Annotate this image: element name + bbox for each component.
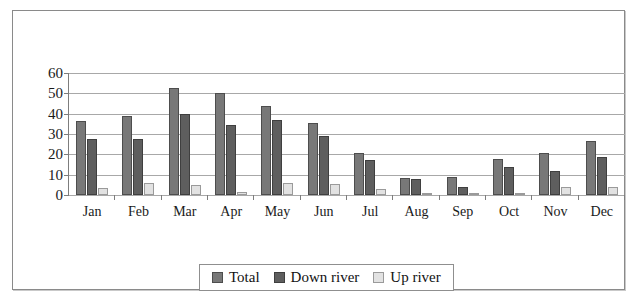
bar-sep-total [447, 177, 457, 195]
x-axis-tickmark [485, 195, 486, 200]
x-axis-label-jan: Jan [83, 204, 102, 220]
y-axis-tick-label: 20 [48, 146, 63, 163]
bar-group: Sep [440, 73, 486, 195]
bar-jan-down-river [87, 139, 97, 195]
bar-group: Jan [69, 73, 115, 195]
bar-oct-up-river [515, 193, 525, 195]
bar-feb-down-river [133, 139, 143, 195]
bar-jul-total [354, 153, 364, 195]
x-axis-label-oct: Oct [499, 204, 519, 220]
bar-group: Nov [532, 73, 578, 195]
bar-group: Apr [208, 73, 254, 195]
bar-nov-total [539, 153, 549, 195]
legend-swatch-icon [212, 272, 223, 283]
bar-jan-up-river [98, 188, 108, 195]
bar-sep-down-river [458, 187, 468, 195]
bar-group: Feb [115, 73, 161, 195]
bar-sep-up-river [469, 193, 479, 195]
bar-may-down-river [272, 120, 282, 195]
x-axis-tickmark [531, 195, 532, 200]
x-axis-tickmark [114, 195, 115, 200]
x-axis-label-feb: Feb [128, 204, 149, 220]
y-axis-tick-label: 40 [48, 105, 63, 122]
bar-jun-total [308, 123, 318, 195]
gridline [69, 195, 625, 196]
bar-group: Jul [347, 73, 393, 195]
x-axis-tickmark [300, 195, 301, 200]
bar-mar-down-river [180, 114, 190, 195]
y-axis-tickmark [64, 195, 69, 196]
bar-group: May [254, 73, 300, 195]
y-axis-tick-label: 0 [56, 187, 64, 204]
y-axis-tick-label: 60 [48, 65, 63, 82]
bar-may-total [261, 106, 271, 195]
x-axis-label-may: May [265, 204, 291, 220]
bar-aug-total [400, 178, 410, 195]
x-axis-label-mar: Mar [173, 204, 196, 220]
bar-group: Aug [393, 73, 439, 195]
legend-item-up-river[interactable]: Up river [373, 269, 440, 286]
x-axis-label-jun: Jun [314, 204, 333, 220]
chart-figure: 0102030405060JanFebMarAprMayJunJulAugSep… [12, 10, 625, 290]
bar-oct-down-river [504, 167, 514, 195]
x-axis-tickmark [624, 195, 625, 200]
bar-jun-down-river [319, 136, 329, 195]
bar-dec-total [586, 141, 596, 195]
bar-mar-up-river [191, 185, 201, 195]
bar-jul-down-river [365, 160, 375, 195]
bar-apr-up-river [237, 192, 247, 195]
bar-jan-total [76, 121, 86, 195]
bar-feb-up-river [144, 183, 154, 195]
bar-group: Jun [301, 73, 347, 195]
legend-label: Up river [390, 269, 440, 286]
legend-item-down-river[interactable]: Down river [274, 269, 360, 286]
legend-label: Down river [291, 269, 360, 286]
bar-may-up-river [283, 183, 293, 195]
x-axis-label-sep: Sep [452, 204, 473, 220]
x-axis-label-nov: Nov [543, 204, 567, 220]
legend-label: Total [229, 269, 260, 286]
bar-group: Mar [162, 73, 208, 195]
bar-feb-total [122, 116, 132, 195]
chart-legend: TotalDown riverUp river [199, 264, 454, 291]
bar-aug-up-river [422, 193, 432, 195]
legend-item-total[interactable]: Total [212, 269, 260, 286]
x-axis-tickmark [439, 195, 440, 200]
y-axis-tick-label: 30 [48, 126, 63, 143]
legend-swatch-icon [373, 272, 384, 283]
x-axis-tickmark [161, 195, 162, 200]
y-axis-tick-label: 10 [48, 166, 63, 183]
bar-dec-down-river [597, 157, 607, 195]
bar-mar-total [169, 88, 179, 195]
bar-oct-total [493, 159, 503, 195]
chart-title [213, 33, 513, 51]
bar-group: Oct [486, 73, 532, 195]
bar-aug-down-river [411, 179, 421, 195]
bar-nov-down-river [550, 171, 560, 195]
x-axis-tickmark [346, 195, 347, 200]
plot-area: 0102030405060JanFebMarAprMayJunJulAugSep… [68, 73, 625, 196]
x-axis-tickmark [392, 195, 393, 200]
x-axis-label-apr: Apr [220, 204, 242, 220]
bar-group: Dec [579, 73, 625, 195]
x-axis-label-dec: Dec [591, 204, 614, 220]
bar-apr-total [215, 93, 225, 195]
legend-swatch-icon [274, 272, 285, 283]
bar-dec-up-river [608, 187, 618, 195]
x-axis-tickmark [253, 195, 254, 200]
x-axis-tickmark [207, 195, 208, 200]
x-axis-label-aug: Aug [404, 204, 428, 220]
x-axis-tickmark [578, 195, 579, 200]
x-axis-label-jul: Jul [362, 204, 378, 220]
bar-nov-up-river [561, 187, 571, 195]
y-axis-tick-label: 50 [48, 85, 63, 102]
bar-jun-up-river [330, 184, 340, 195]
bar-apr-down-river [226, 125, 236, 195]
bar-jul-up-river [376, 189, 386, 195]
